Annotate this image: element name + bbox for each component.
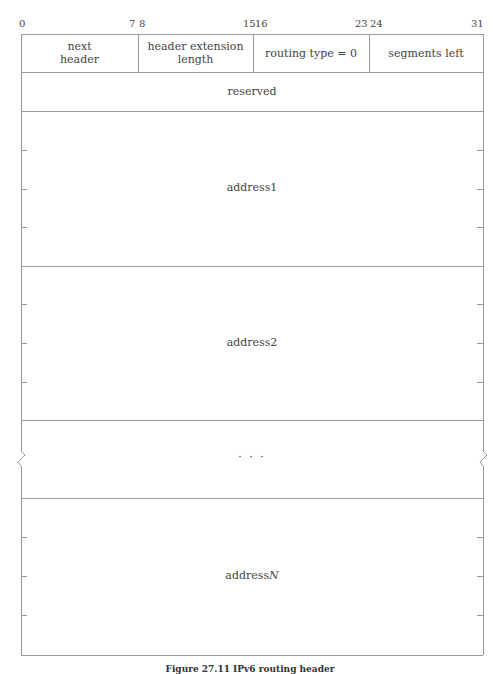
field-next-header: nextheader bbox=[21, 34, 138, 72]
bit-24: 24 bbox=[370, 18, 383, 29]
bit-31: 31 bbox=[471, 18, 484, 29]
next-header-line2: header bbox=[60, 53, 99, 66]
tick bbox=[477, 576, 483, 577]
field-address2: address2 bbox=[21, 336, 483, 349]
tick bbox=[477, 227, 483, 228]
tick bbox=[21, 537, 27, 538]
field-routing-type: routing type = 0 bbox=[253, 34, 369, 72]
bit-16: 16 bbox=[255, 18, 268, 29]
tick bbox=[21, 615, 27, 616]
line-address2-bottom bbox=[21, 420, 483, 421]
segments-left-label: segments left bbox=[388, 47, 463, 60]
routing-type-label: routing type = 0 bbox=[265, 47, 357, 60]
next-header-line1: next bbox=[67, 40, 91, 53]
bit-0: 0 bbox=[19, 18, 25, 29]
line-bottom-full bbox=[21, 655, 483, 656]
hdr-ext-len-line2: length bbox=[178, 53, 214, 66]
tick bbox=[477, 150, 483, 151]
addressN-suffix: N bbox=[269, 569, 279, 582]
tick bbox=[477, 343, 483, 344]
field-header-extension-length: header extensionlength bbox=[138, 34, 253, 72]
tick bbox=[477, 382, 483, 383]
field-address1: address1 bbox=[21, 181, 483, 194]
tick bbox=[21, 227, 27, 228]
tick bbox=[477, 304, 483, 305]
line-row1-bottom bbox=[21, 72, 483, 73]
tick bbox=[21, 343, 27, 344]
left-border-bottom bbox=[21, 466, 22, 655]
line-address1-bottom bbox=[21, 266, 483, 267]
bit-7: 7 bbox=[129, 18, 135, 29]
field-reserved: reserved bbox=[21, 85, 483, 98]
addressN-prefix: address bbox=[225, 569, 269, 582]
tick bbox=[21, 150, 27, 151]
right-border-bottom bbox=[483, 466, 484, 655]
tick bbox=[477, 189, 483, 190]
field-addressN: addressN bbox=[21, 569, 483, 582]
tick bbox=[477, 537, 483, 538]
tick bbox=[477, 615, 483, 616]
tick bbox=[21, 304, 27, 305]
ellipsis: · · · bbox=[21, 451, 483, 464]
tick bbox=[21, 576, 27, 577]
bit-15: 15 bbox=[243, 18, 256, 29]
line-ellipsis-bottom bbox=[21, 498, 483, 499]
field-segments-left: segments left bbox=[369, 34, 483, 72]
tick bbox=[21, 382, 27, 383]
tick bbox=[21, 189, 27, 190]
figure-caption: Figure 27.11 IPv6 routing header bbox=[0, 664, 500, 674]
line-reserved-bottom bbox=[21, 111, 483, 112]
bit-8: 8 bbox=[139, 18, 145, 29]
hdr-ext-len-line1: header extension bbox=[147, 40, 243, 53]
bit-23: 23 bbox=[355, 18, 368, 29]
right-border-top bbox=[483, 34, 484, 451]
